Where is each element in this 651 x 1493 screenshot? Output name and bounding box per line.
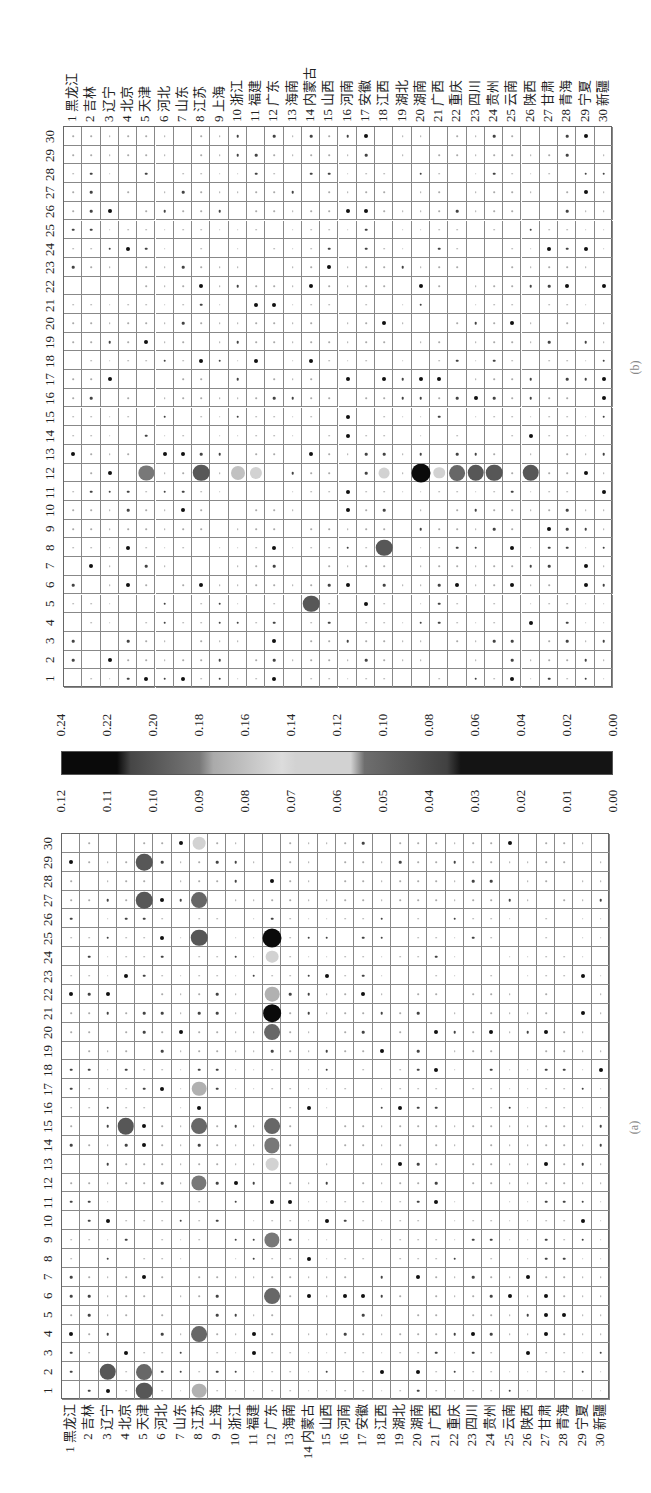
bubble bbox=[254, 359, 258, 363]
bubble bbox=[308, 1220, 310, 1222]
bubble bbox=[454, 1295, 456, 1297]
bubble bbox=[548, 603, 550, 605]
bubble bbox=[180, 1126, 182, 1128]
bubble bbox=[309, 284, 313, 288]
bubble bbox=[292, 229, 294, 231]
bubble bbox=[200, 154, 202, 156]
bubble bbox=[200, 659, 202, 661]
bubble bbox=[271, 975, 273, 977]
bubble bbox=[566, 378, 569, 381]
bubble bbox=[490, 1314, 492, 1316]
column-index-label: 15 bbox=[41, 1120, 54, 1133]
bubble bbox=[346, 583, 350, 587]
matrix-cell bbox=[82, 651, 100, 670]
bubble bbox=[402, 491, 404, 493]
bubble bbox=[237, 360, 239, 362]
bubble bbox=[548, 640, 550, 642]
province-label: 23 四川 bbox=[465, 1404, 478, 1469]
column-index-label: 14 bbox=[43, 430, 56, 443]
bubble bbox=[582, 1107, 584, 1109]
bubble bbox=[310, 229, 312, 231]
bubble bbox=[402, 136, 404, 138]
bubble bbox=[475, 341, 477, 343]
bubble bbox=[383, 509, 386, 512]
bubble bbox=[143, 1087, 146, 1090]
bubble bbox=[182, 528, 184, 530]
bubble bbox=[527, 1239, 529, 1241]
bubble bbox=[70, 1031, 72, 1033]
bubble bbox=[127, 304, 129, 306]
matrix-cell bbox=[522, 295, 540, 314]
bubble bbox=[530, 603, 532, 605]
bubble bbox=[417, 937, 419, 939]
matrix-cell bbox=[354, 1155, 372, 1174]
bubble bbox=[363, 1145, 365, 1147]
matrix-cell bbox=[576, 389, 594, 408]
bubble bbox=[493, 678, 495, 680]
bubble bbox=[474, 453, 477, 456]
bubble bbox=[99, 1363, 116, 1380]
bubble bbox=[310, 659, 312, 661]
matrix-cell bbox=[336, 1230, 354, 1249]
matrix-cell bbox=[137, 408, 155, 427]
bubble bbox=[253, 1277, 255, 1279]
bubble bbox=[456, 397, 459, 400]
bubble bbox=[219, 304, 221, 306]
bubble bbox=[107, 956, 109, 958]
column-index-label: 9 bbox=[41, 1236, 54, 1243]
bubble bbox=[490, 1126, 492, 1128]
column-index-label: 2 bbox=[41, 1368, 54, 1375]
bubble bbox=[512, 266, 514, 268]
bubble bbox=[255, 341, 257, 343]
bubble bbox=[253, 1314, 255, 1316]
matrix-cell bbox=[393, 164, 411, 183]
bubble bbox=[164, 323, 166, 325]
bubble bbox=[180, 1012, 182, 1014]
bubble bbox=[509, 1145, 511, 1147]
bubble bbox=[326, 994, 328, 996]
bubble bbox=[125, 1182, 127, 1184]
bubble bbox=[146, 659, 148, 661]
province-label: 16 河南 bbox=[340, 80, 353, 122]
bubble bbox=[234, 1314, 237, 1317]
bubble bbox=[438, 247, 441, 250]
matrix-cell bbox=[448, 333, 466, 352]
bubble bbox=[89, 862, 91, 864]
bubble bbox=[292, 323, 294, 325]
bubble bbox=[530, 584, 532, 586]
bubble bbox=[381, 994, 383, 996]
matrix-cell bbox=[299, 1306, 317, 1325]
bubble bbox=[475, 304, 477, 306]
matrix-cell bbox=[229, 295, 247, 314]
bubble bbox=[347, 154, 349, 156]
bubble bbox=[200, 303, 203, 306]
bubble bbox=[219, 472, 221, 474]
bubble bbox=[198, 1220, 200, 1222]
bubble bbox=[72, 229, 75, 232]
bubble bbox=[146, 323, 148, 325]
bubble bbox=[603, 154, 605, 156]
bubble bbox=[88, 1219, 91, 1222]
bubble bbox=[600, 1050, 602, 1052]
matrix-cell bbox=[448, 669, 466, 688]
bubble bbox=[472, 1088, 474, 1090]
bubble bbox=[566, 247, 569, 250]
matrix-cell bbox=[80, 1249, 98, 1268]
bubble bbox=[91, 528, 93, 530]
bubble bbox=[509, 1182, 511, 1184]
bubble bbox=[493, 528, 496, 531]
bubble bbox=[290, 1371, 292, 1373]
bubble bbox=[383, 528, 385, 530]
bubble bbox=[219, 136, 221, 138]
bubble bbox=[475, 285, 477, 287]
bubble bbox=[106, 1389, 110, 1393]
bubble bbox=[143, 880, 145, 882]
bubble bbox=[127, 453, 129, 455]
bubble bbox=[600, 1163, 602, 1165]
bubble bbox=[420, 397, 423, 400]
bubble bbox=[271, 1314, 273, 1316]
bubble bbox=[124, 1351, 128, 1355]
bubble bbox=[472, 1050, 474, 1052]
bubble bbox=[200, 397, 202, 399]
bubble bbox=[512, 566, 514, 568]
